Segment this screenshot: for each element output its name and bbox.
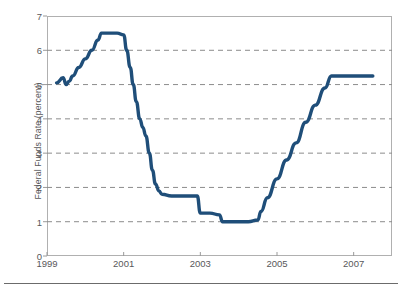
footer-divider — [4, 283, 398, 284]
y-tick-label: 4 — [2, 113, 42, 124]
x-tick-label: 2005 — [247, 258, 307, 269]
chart-figure: Federal Funds Rate (percent) 01234567 19… — [0, 0, 402, 291]
y-tick-label: 1 — [2, 216, 42, 227]
y-tick-label: 5 — [2, 79, 42, 90]
x-tick-label: 2001 — [94, 258, 154, 269]
x-tick-marks — [47, 252, 354, 256]
y-tick-labels: 01234567 — [0, 0, 42, 291]
y-tick-label: 2 — [2, 182, 42, 193]
y-tick-label: 3 — [2, 148, 42, 159]
x-tick-label: 2007 — [324, 258, 384, 269]
x-tick-label: 1999 — [17, 258, 77, 269]
y-tick-label: 7 — [2, 11, 42, 22]
y-tick-marks — [43, 16, 47, 256]
x-tick-label: 2003 — [170, 258, 230, 269]
series-line-federal-funds-rate — [57, 33, 373, 222]
y-tick-label: 6 — [2, 45, 42, 56]
chart-canvas — [0, 0, 402, 291]
